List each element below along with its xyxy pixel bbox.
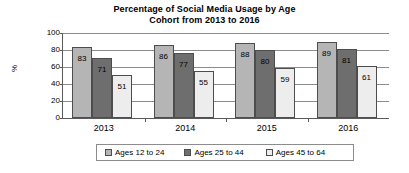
y-axis-tick-label: 100 — [34, 29, 60, 37]
bar[interactable]: 83 — [72, 47, 92, 118]
bar-value-label: 71 — [93, 66, 111, 74]
bar-group: 888059 — [226, 33, 308, 118]
bar[interactable]: 61 — [357, 66, 377, 118]
y-axis-tick-label: 20 — [34, 97, 60, 105]
bar-value-label: 55 — [195, 79, 213, 87]
x-axis-category-label: 2014 — [145, 123, 227, 133]
bar-value-label: 51 — [113, 83, 131, 91]
chart-title-line-2: Cohort from 2013 to 2016 — [0, 15, 409, 26]
legend-item-ages-25-to-44[interactable]: Ages 25 to 44 — [184, 148, 243, 157]
legend-label: Ages 12 to 24 — [115, 148, 164, 157]
x-axis-category-label: 2015 — [226, 123, 308, 133]
bar-value-label: 81 — [338, 57, 356, 65]
y-axis-title: % — [10, 65, 19, 72]
bar-value-label: 86 — [155, 53, 173, 61]
bar[interactable]: 59 — [275, 68, 295, 118]
bar[interactable]: 55 — [194, 71, 214, 118]
x-axis-tick-mark — [308, 118, 309, 122]
bar[interactable]: 88 — [235, 43, 255, 118]
y-axis-tick-label: 80 — [34, 46, 60, 54]
legend-item-ages-12-to-24[interactable]: Ages 12 to 24 — [105, 148, 164, 157]
legend-swatch-icon — [105, 149, 112, 156]
chart-legend: Ages 12 to 24 Ages 25 to 44 Ages 45 to 6… — [96, 144, 354, 161]
x-axis-category-label: 2016 — [308, 123, 390, 133]
bar[interactable]: 86 — [154, 45, 174, 118]
bar-value-label: 80 — [256, 58, 274, 66]
legend-label: Ages 25 to 44 — [194, 148, 243, 157]
bar-value-label: 77 — [175, 61, 193, 69]
bar-value-label: 59 — [276, 76, 294, 84]
chart-title: Percentage of Social Media Usage by Age … — [0, 4, 409, 26]
bar[interactable]: 77 — [174, 53, 194, 118]
bar-group: 837151 — [63, 33, 145, 118]
x-axis-category-label: 2013 — [63, 123, 145, 133]
x-axis-tick-mark — [226, 118, 227, 122]
y-axis-tick-label: 60 — [34, 63, 60, 71]
legend-swatch-icon — [266, 149, 273, 156]
bar[interactable]: 81 — [337, 49, 357, 118]
bar-value-label: 61 — [358, 74, 376, 82]
chart-title-line-1: Percentage of Social Media Usage by Age — [113, 4, 295, 14]
y-axis-tick-label: 40 — [34, 80, 60, 88]
legend-item-ages-45-to-64[interactable]: Ages 45 to 64 — [266, 148, 325, 157]
bar[interactable]: 51 — [112, 75, 132, 118]
legend-swatch-icon — [184, 149, 191, 156]
y-axis-tick-label: 0 — [34, 114, 60, 122]
bar-group: 898161 — [308, 33, 390, 118]
bar-value-label: 88 — [236, 51, 254, 59]
bar-value-label: 89 — [318, 50, 336, 58]
bar[interactable]: 89 — [317, 42, 337, 118]
plot-area: 8371512013867755201488805920158981612016 — [62, 33, 389, 119]
legend-label: Ages 45 to 64 — [276, 148, 325, 157]
bar[interactable]: 71 — [92, 58, 112, 118]
bar[interactable]: 80 — [255, 50, 275, 118]
y-axis-tick-mark — [60, 118, 63, 119]
y-axis-tick-labels: 020406080100 — [30, 33, 60, 118]
x-axis-tick-mark — [145, 118, 146, 122]
bar-group: 867755 — [145, 33, 227, 118]
bar-value-label: 83 — [73, 55, 91, 63]
